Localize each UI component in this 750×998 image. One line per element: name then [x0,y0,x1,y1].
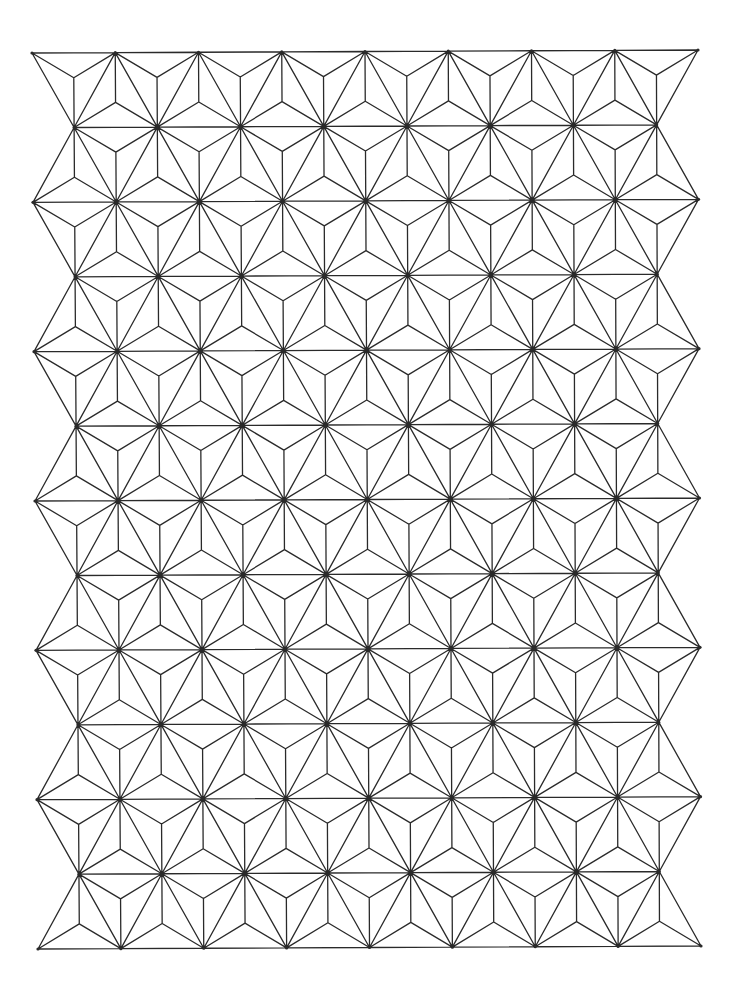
vertex-dot [617,945,620,948]
vertex-dot [657,571,660,574]
vertex-dot [656,422,659,425]
vertex-dot [160,872,163,875]
vertex-dot [76,723,79,726]
vertex-dot [156,126,159,129]
vertex-dot [239,125,242,128]
vertex-dot [241,424,244,427]
vertex-dot [280,50,283,53]
vertex-dot [573,422,576,425]
vertex-dot [572,124,575,127]
vertex-dot [201,797,204,800]
vertex-dot [574,572,577,575]
vertex-dot [324,423,327,426]
vertex-dot [364,199,367,202]
vertex-dot [449,647,452,650]
vertex-dot [368,946,371,949]
vertex-dot [532,497,535,500]
vertex-dot [241,573,244,576]
vertex-dot [405,124,408,127]
vertex-dot [283,648,286,651]
vertex-dot [35,798,38,801]
vertex-dot [114,51,117,54]
vertex-dot [115,200,118,203]
vertex-dot [407,423,410,426]
asanoha-pattern: Asanoha (hemp leaf) geometric line patte… [0,0,750,998]
vertex-dot [73,275,76,278]
vertex-dot [489,273,492,276]
vertex-dot [117,648,120,651]
vertex-dot [36,947,39,950]
vertex-dot [657,721,660,724]
vertex-dot [448,348,451,351]
vertex-dot [116,499,119,502]
vertex-dot [367,797,370,800]
vertex-dot [699,795,702,798]
vertex-dot [34,649,37,652]
vertex-dot [197,51,200,54]
vertex-dot [33,499,36,502]
vertex-dot [198,200,201,203]
vertex-dot [534,945,537,948]
vertex-dot [366,498,369,501]
vertex-dot [284,797,287,800]
vertex-dot [366,647,369,650]
vertex-dot [491,572,494,575]
pattern-vertices [30,48,702,950]
vertex-dot [655,123,658,126]
vertex-dot [699,944,702,947]
vertex-dot [73,126,76,129]
vertex-dot [614,347,617,350]
vertex-dot [281,200,284,203]
vertex-dot [450,796,453,799]
vertex-dot [119,947,122,950]
vertex-dot [697,198,700,201]
vertex-dot [531,348,534,351]
vertex-dot [489,124,492,127]
vertex-dot [158,424,161,427]
vertex-dot [159,723,162,726]
vertex-dot [408,572,411,575]
vertex-dot [75,574,78,577]
vertex-dot [696,48,699,51]
vertex-dot [406,274,409,277]
vertex-dot [615,497,618,500]
vertex-dot [490,423,493,426]
vertex-dot [409,871,412,874]
vertex-dot [658,870,661,873]
vertex-dot [240,274,243,277]
vertex-dot [491,721,494,724]
vertex-dot [615,646,618,649]
vertex-dot [31,201,34,204]
vertex-dot [613,49,616,52]
vertex-dot [325,722,328,725]
vertex-dot [449,498,452,501]
vertex-dot [451,946,454,949]
vertex-dot [363,50,366,53]
vertex-dot [614,198,617,201]
vertex-dot [492,871,495,874]
vertex-dot [447,199,450,202]
vertex-dot [656,273,659,276]
vertex-dot [30,51,33,54]
vertex-dot [74,425,77,428]
vertex-dot [118,798,121,801]
vertex-dot [572,273,575,276]
vertex-dot [157,275,160,278]
vertex-dot [32,350,35,353]
vertex-dot [242,722,245,725]
vertex-dot [365,349,368,352]
vertex-dot [158,574,161,577]
vertex-dot [530,49,533,52]
vertex-dot [698,496,701,499]
vertex-dot [697,347,700,350]
vertex-dot [323,274,326,277]
vertex-dot [325,573,328,576]
vertex-dot [77,873,80,876]
vertex-dot [200,648,203,651]
vertex-dot [243,872,246,875]
vertex-dot [574,721,577,724]
vertex-dot [531,198,534,201]
vertex-dot [533,796,536,799]
vertex-dot [285,946,288,949]
vertex-dot [447,50,450,53]
